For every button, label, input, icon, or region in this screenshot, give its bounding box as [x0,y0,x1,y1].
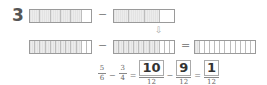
fraction-bar-one-twelfth [194,40,256,54]
minus-sign: − [98,8,107,22]
problem-number: 3 [12,5,24,25]
shaded-cell [30,10,40,22]
equals-sign: = [181,39,190,53]
minus-sign: − [167,71,174,80]
shaded-cell [129,10,144,22]
equals-sign: = [194,71,201,80]
answer-box[interactable]: 1 [204,60,219,76]
fraction-bar-three-quarters [113,9,175,23]
fraction-bar-nine-twelfths [113,40,175,54]
fraction-5-6: 5 6 [98,64,106,83]
shaded-cell [40,10,50,22]
minus-sign: − [98,39,107,53]
shaded-cell [61,10,71,22]
fraction-1-12: 1 12 [204,60,219,85]
shaded-cell [114,10,129,22]
shaded-cell [145,10,160,22]
empty-cell [170,41,174,53]
empty-cell [82,10,91,22]
minus-sign: − [109,71,116,80]
answer-box[interactable]: 9 [176,60,191,76]
fraction-bar-ten-twelfths [29,40,92,54]
fraction-bar-five-sixths [29,9,92,23]
empty-cell [251,41,255,53]
empty-cell [87,41,91,53]
shaded-cell [51,10,61,22]
fraction-3-4: 3 4 [119,64,127,83]
shaded-cell [71,10,81,22]
fraction-9-12: 9 12 [176,60,191,85]
fraction-equation: 5 6 − 3 4 = 10 12 − 9 12 = 1 12 [97,60,220,85]
answer-box[interactable]: 10 [139,60,163,76]
down-arrow-icon: ⇩ [155,25,163,35]
fraction-10-12: 10 12 [139,60,163,85]
empty-cell [160,10,174,22]
equals-sign: = [130,71,137,80]
